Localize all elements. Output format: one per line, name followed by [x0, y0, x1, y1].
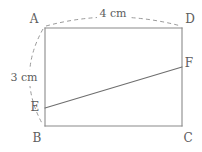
vertex-label-E: E	[31, 100, 40, 114]
segment-EF-group	[45, 67, 182, 108]
geometry-diagram: 4 cm 3 cm A D B C E F	[0, 0, 202, 152]
vertex-label-A: A	[29, 12, 39, 26]
rectangle-sides	[45, 28, 182, 126]
vertex-label-B: B	[33, 131, 42, 145]
vertex-label-D: D	[185, 12, 195, 26]
height-dimension-label: 3 cm	[10, 71, 38, 84]
dimension-labels: 4 cm 3 cm	[10, 7, 127, 84]
geometry-canvas: 4 cm 3 cm A D B C E F	[0, 0, 202, 152]
width-dimension-label: 4 cm	[99, 7, 127, 20]
vertex-label-F: F	[185, 56, 193, 70]
vertex-labels: A D B C E F	[29, 12, 195, 145]
dimension-arcs	[30, 17, 182, 125]
vertex-label-C: C	[183, 131, 192, 145]
segment-EF-line	[45, 67, 182, 108]
